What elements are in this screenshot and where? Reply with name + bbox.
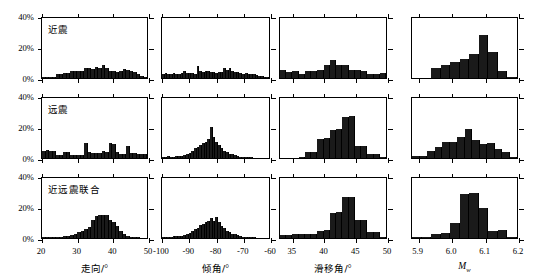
bar [266, 77, 269, 78]
panel-joint-strike: 近远震联合 [41, 177, 148, 239]
y-tick-inner [388, 18, 393, 19]
panel-tele-mw [411, 97, 518, 159]
bars-group [412, 178, 517, 238]
y-tick-inner [149, 209, 154, 210]
x-tick-top [388, 174, 389, 179]
y-tick-inner [388, 98, 393, 99]
x-axis-tick-label: -100 [153, 246, 169, 256]
x-tick [189, 238, 190, 243]
bar [420, 156, 428, 158]
bars-group [162, 18, 269, 78]
panel-near-mw [411, 17, 518, 79]
x-tick [149, 78, 150, 83]
x-tick-top [388, 14, 389, 19]
bar [144, 154, 148, 158]
panel-joint-rake [279, 177, 387, 239]
bar [498, 230, 508, 238]
x-tick-top [189, 94, 190, 99]
x-tick [78, 78, 79, 83]
x-tick-top [78, 174, 79, 179]
y-tick-inner [519, 18, 524, 19]
y-tick-inner [519, 129, 524, 130]
bar [472, 140, 480, 158]
x-axis-tick-label: 20 [37, 246, 46, 256]
x-tick [486, 78, 487, 83]
x-tick [324, 78, 325, 83]
bar [469, 54, 479, 78]
x-axis-tick-label: 45 [351, 246, 360, 256]
x-tick [271, 158, 272, 163]
x-tick [356, 158, 357, 163]
x-axis-tick-label: 30 [72, 246, 81, 256]
bar [380, 157, 386, 158]
x-tick-top [271, 94, 272, 99]
y-tick [38, 98, 43, 99]
bar [488, 52, 498, 78]
x-axis-tick-label: -70 [237, 246, 248, 256]
bar [460, 59, 470, 78]
y-tick-inner [271, 98, 276, 99]
y-axis-label: 0% [0, 74, 34, 84]
y-axis-label: 40% [0, 172, 34, 182]
panel-near-dip [161, 17, 270, 79]
x-axis-tick-label: -80 [210, 246, 221, 256]
panel-tele-dip [161, 97, 270, 159]
row-label-joint: 近远震联合 [48, 182, 100, 196]
x-tick-top [519, 174, 520, 179]
bar [441, 65, 451, 79]
plot-area [280, 178, 386, 238]
x-axis-tick-label: -60 [264, 246, 275, 256]
panel-near-rake [279, 17, 387, 79]
x-tick [452, 158, 453, 163]
x-tick [324, 238, 325, 243]
x-tick-top [42, 94, 43, 99]
x-tick [42, 158, 43, 163]
y-tick [38, 178, 43, 179]
bar [510, 157, 518, 159]
x-tick [419, 78, 420, 83]
x-tick-top [419, 14, 420, 19]
x-tick [78, 238, 79, 243]
bar [480, 144, 488, 158]
bar [450, 223, 460, 238]
plot-area [162, 178, 269, 238]
x-tick [388, 78, 389, 83]
bar [469, 193, 479, 238]
y-tick-inner [149, 18, 154, 19]
x-tick [324, 158, 325, 163]
x-tick-top [519, 14, 520, 19]
plot-area [162, 18, 269, 78]
x-tick [419, 238, 420, 243]
y-axis-label: 20% [0, 43, 34, 53]
x-tick [388, 158, 389, 163]
y-tick-inner [271, 49, 276, 50]
bar [380, 237, 386, 238]
bar [435, 147, 443, 158]
x-tick [244, 158, 245, 163]
y-tick-inner [388, 129, 393, 130]
x-tick [388, 238, 389, 243]
x-tick-top [217, 94, 218, 99]
panel-tele-strike: 远震 [41, 97, 148, 159]
bar [457, 137, 465, 158]
axis-title-strike: 走向/° [81, 261, 108, 275]
x-axis-tick-label: 35 [287, 246, 296, 256]
y-tick [38, 18, 43, 19]
x-axis-tick-label: -90 [183, 246, 194, 256]
x-tick [356, 238, 357, 243]
bar [507, 77, 517, 78]
axis-title-dip: 倾角/° [202, 261, 229, 275]
x-tick [113, 238, 114, 243]
x-tick-top [356, 14, 357, 19]
bar [144, 77, 148, 78]
x-tick-top [217, 174, 218, 179]
x-tick [486, 238, 487, 243]
bars-group [162, 178, 269, 238]
bar [465, 129, 473, 158]
bar [412, 237, 422, 238]
x-tick-top [42, 14, 43, 19]
bar [450, 62, 460, 79]
panel-joint-mw [411, 177, 518, 239]
x-tick-top [293, 14, 294, 19]
bars-group [412, 18, 517, 78]
